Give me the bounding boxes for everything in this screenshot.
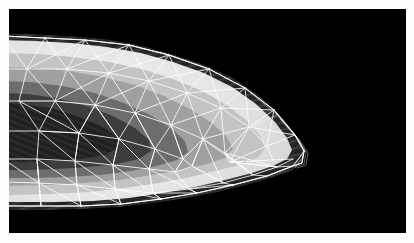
figure-root [0,0,414,243]
mesh-vertex [303,150,305,152]
scalar-field-plot [9,9,406,233]
mesh-vertex [44,37,46,39]
plot-canvas [9,9,406,233]
mesh-vertex [273,109,275,111]
mesh-vertex [232,184,234,186]
mesh-vertex [160,198,162,200]
mesh-vertex [208,68,210,70]
mesh-vertex [80,205,82,207]
mesh-vertex [128,44,130,46]
